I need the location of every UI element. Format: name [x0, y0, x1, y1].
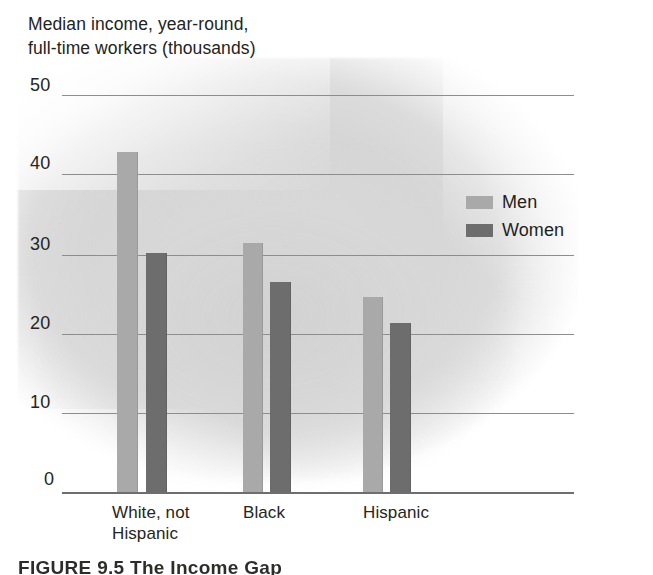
bar-men-white-not-hispanic [117, 152, 138, 492]
figure-caption-fragment: FIGURE 9.5 The Income Gap [18, 557, 282, 575]
legend-entry-women: Women [466, 216, 564, 244]
y-tick-50: 50 [30, 76, 50, 94]
bar-women-white-not-hispanic [146, 253, 167, 492]
gridline-10 [62, 413, 574, 414]
gridline-30 [62, 255, 574, 256]
bar-women-black [270, 282, 291, 492]
legend-label-men: Men [502, 193, 537, 211]
x-label-white-not-hispanic: White, not Hispanic [112, 502, 190, 544]
bar-men-black [243, 243, 263, 492]
gridline-50 [62, 95, 574, 96]
legend-swatch-women-icon [466, 224, 493, 237]
y-tick-40: 40 [30, 154, 50, 172]
bar-men-hispanic [363, 297, 383, 492]
gridline-20 [62, 334, 574, 335]
gridline-40 [62, 174, 574, 175]
legend-label-women: Women [502, 221, 564, 239]
legend-entry-men: Men [466, 188, 564, 216]
y-tick-10: 10 [30, 393, 50, 411]
legend-swatch-men-icon [466, 196, 493, 209]
y-tick-20: 20 [30, 314, 50, 332]
bar-women-hispanic [390, 323, 411, 492]
y-tick-0: 0 [44, 470, 54, 488]
axis-baseline [62, 492, 574, 494]
y-tick-30: 30 [30, 235, 50, 253]
chart-legend: Men Women [466, 188, 564, 244]
x-label-hispanic: Hispanic [363, 502, 429, 523]
x-label-black: Black [243, 502, 285, 523]
